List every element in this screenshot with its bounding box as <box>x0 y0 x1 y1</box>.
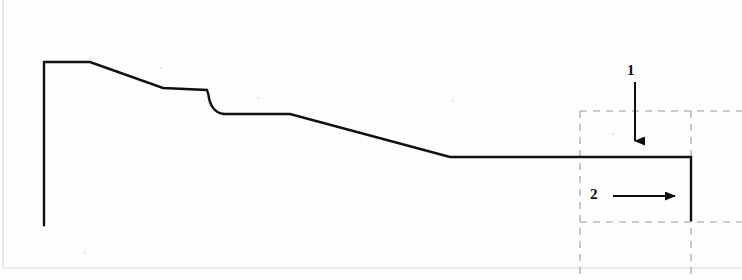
technical-figure-canvas: 1 2 <box>0 0 742 280</box>
scan-speck <box>257 97 259 99</box>
dashed-detail-region <box>580 111 742 275</box>
callout-1-label: 1 <box>627 63 635 78</box>
scan-speck <box>612 133 614 135</box>
scan-speck <box>160 67 162 69</box>
scan-speck <box>452 100 454 102</box>
scan-speck <box>84 252 86 254</box>
callout-2-label: 2 <box>590 187 598 202</box>
figure-vector-layer <box>0 0 742 280</box>
